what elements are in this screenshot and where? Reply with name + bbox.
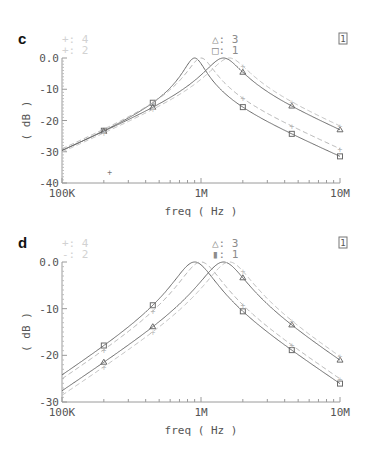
legend-entry: +: 2	[62, 44, 89, 57]
svg-text:+: +	[150, 328, 155, 337]
svg-text:+: +	[240, 94, 245, 103]
y-tick-label: -10	[39, 303, 59, 316]
svg-text:+: +	[240, 267, 245, 276]
svg-text:+: +	[289, 122, 294, 131]
svg-text:+: +	[150, 307, 155, 316]
svg-text:+: +	[240, 62, 245, 71]
x-axis-title: freq ( Hz )	[165, 424, 238, 437]
x-tick-label: 10M	[330, 406, 350, 419]
y-tick-label: 0.0	[39, 52, 59, 65]
svg-text:+: +	[101, 129, 106, 138]
series-line-1	[62, 58, 340, 156]
svg-text:+: +	[338, 352, 343, 361]
svg-text:+: +	[289, 98, 294, 107]
svg-text:1: 1	[340, 238, 345, 248]
y-axis-title: ( dB )	[20, 101, 33, 141]
x-axis-title: freq ( Hz )	[165, 205, 238, 218]
svg-text:+: +	[289, 317, 294, 326]
svg-text:+: +	[150, 105, 155, 114]
y-tick-label: -30	[39, 146, 59, 159]
y-tick-label: 0.0	[39, 256, 59, 269]
y-tick-label: -20	[39, 349, 59, 362]
x-tick-label: 10M	[330, 187, 350, 200]
y-tick-label: -20	[39, 115, 59, 128]
plot-number-badge: 1	[339, 237, 347, 248]
x-tick-label: 100K	[49, 406, 76, 419]
y-axis-title: ( dB )	[20, 312, 33, 352]
x-tick-label: 1M	[194, 187, 208, 200]
panel-c: c 0.0-10-20-30-40100K1M10Mfreq ( Hz )( d…	[0, 0, 369, 225]
plot-number-badge: 1	[339, 33, 347, 44]
svg-text:+: +	[338, 122, 343, 131]
series-line-4	[62, 58, 340, 152]
svg-text:+: +	[289, 341, 294, 350]
legend-entry: -: 2	[62, 248, 89, 261]
x-tick-label: 1M	[194, 406, 208, 419]
y-tick-label: -10	[39, 83, 59, 96]
svg-text:1: 1	[340, 34, 345, 44]
series-line-2	[62, 262, 340, 379]
stray-marker: +	[107, 168, 112, 177]
x-tick-label: 100K	[49, 187, 76, 200]
svg-text:+: +	[240, 301, 245, 310]
legend-entry: ▮: 1	[212, 248, 239, 261]
svg-text:+: +	[338, 375, 343, 384]
legend-entry: □: 1	[212, 44, 239, 57]
svg-text:+: +	[101, 346, 106, 355]
panel-d: d 0.0-10-20-30100K1M10Mfreq ( Hz )( dB )…	[0, 225, 369, 451]
frequency-response-chart-d: 0.0-10-20-30100K1M10Mfreq ( Hz )( dB )+:…	[0, 225, 369, 451]
frequency-response-chart-c: 0.0-10-20-30-40100K1M10Mfreq ( Hz )( dB …	[0, 0, 369, 225]
svg-text:+: +	[101, 363, 106, 372]
svg-text:+: +	[338, 145, 343, 154]
